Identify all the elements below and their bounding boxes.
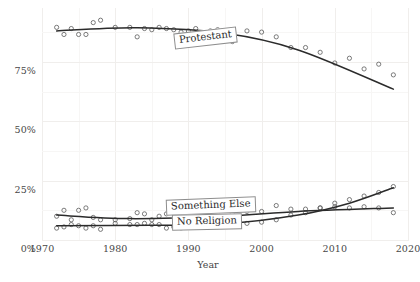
x-axis-tick-labels: 1970 1980 1990 2000 2010 2020	[42, 243, 408, 259]
y-tick-label-75: 75%	[15, 65, 36, 76]
y-tick-label-25: 25%	[15, 184, 36, 195]
data-point	[289, 207, 293, 211]
data-point	[260, 209, 264, 213]
data-point	[274, 35, 278, 39]
data-point	[84, 226, 88, 230]
data-point	[347, 56, 351, 60]
trend-lines	[57, 28, 394, 226]
data-point	[245, 29, 249, 33]
data-point	[303, 45, 307, 49]
data-point	[318, 50, 322, 54]
data-point	[391, 73, 395, 77]
data-point	[55, 226, 59, 230]
x-tick-label-1970: 1970	[30, 243, 55, 254]
data-point	[391, 211, 395, 215]
data-point	[91, 21, 95, 25]
data-point	[98, 18, 102, 22]
x-tick-label-2000: 2000	[249, 243, 274, 254]
data-point	[142, 212, 146, 216]
x-tick-label-1980: 1980	[103, 243, 128, 254]
data-point	[77, 208, 81, 212]
data-point	[260, 30, 264, 34]
data-point	[55, 25, 59, 29]
x-tick-label-1990: 1990	[176, 243, 201, 254]
data-point	[77, 32, 81, 36]
data-point	[84, 32, 88, 36]
data-point	[274, 203, 278, 207]
data-point	[84, 206, 88, 210]
data-point	[362, 67, 366, 71]
data-point	[318, 206, 322, 210]
series-label-no-religion: No Religion	[172, 213, 242, 230]
data-point	[347, 198, 351, 202]
data-point	[377, 62, 381, 66]
y-tick-label-50: 50%	[15, 124, 36, 135]
gridline-x-2020	[408, 8, 409, 241]
data-point	[135, 211, 139, 215]
data-point	[164, 226, 168, 230]
data-point	[69, 218, 73, 222]
data-point	[62, 208, 66, 212]
y-axis-tick-labels: 75% 50% 25% 0%	[0, 8, 38, 241]
data-point	[98, 227, 102, 231]
data-point	[135, 35, 139, 39]
x-axis-title: Year	[0, 259, 416, 270]
x-tick-label-2020: 2020	[396, 243, 420, 254]
x-tick-label-2010: 2010	[323, 243, 348, 254]
data-point	[62, 32, 66, 36]
